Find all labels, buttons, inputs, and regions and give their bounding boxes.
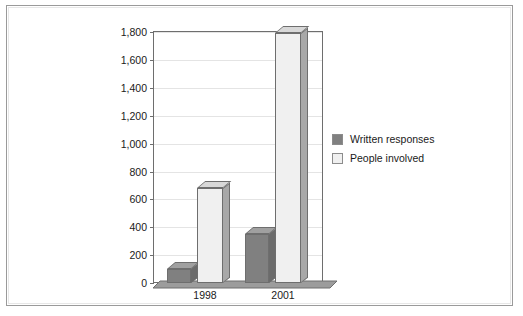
figure-border: 1,800 1,600 1,400 1,200 1,000 800 600 — [6, 5, 513, 306]
page: 1,800 1,600 1,400 1,200 1,000 800 600 — [0, 0, 523, 316]
bar-group-1998 — [167, 31, 239, 283]
legend-swatch-icon — [332, 134, 343, 145]
ytick-label-400: 400 — [129, 222, 147, 233]
bar-front-face — [197, 188, 223, 283]
ytick-label-0: 0 — [141, 278, 147, 289]
xtick-label-1998: 1998 — [193, 290, 216, 301]
legend-label-written-responses: Written responses — [350, 134, 434, 145]
bar-front-face — [167, 269, 191, 283]
legend-label-people-involved: People involved — [350, 153, 424, 164]
ytick-label-1400: 1,400 — [121, 83, 147, 94]
xtick-label-2001: 2001 — [271, 290, 294, 301]
bar-1998-people-involved[interactable] — [197, 188, 223, 283]
bar-2001-people-involved[interactable] — [275, 33, 301, 283]
bar-1998-written-responses[interactable] — [167, 269, 191, 283]
bar-group-2001 — [245, 31, 317, 283]
ytick-label-1800: 1,800 — [121, 27, 147, 38]
bar-side-face — [223, 183, 230, 283]
bar-2001-written-responses[interactable] — [245, 234, 269, 283]
x-axis-labels: 1998 2001 — [153, 290, 331, 308]
ytick-label-1600: 1,600 — [121, 55, 147, 66]
ytick-label-1200: 1,200 — [121, 110, 147, 121]
ytick-label-1000: 1,000 — [121, 138, 147, 149]
legend-swatch-icon — [332, 153, 343, 164]
legend-item-written-responses[interactable]: Written responses — [332, 131, 492, 147]
bar-side-face — [301, 28, 308, 283]
bar-front-face — [245, 234, 269, 283]
ytick-label-600: 600 — [129, 194, 147, 205]
bar-front-face — [275, 33, 301, 283]
chart-legend: Written responses People involved — [332, 131, 492, 169]
bar-chart: 1,800 1,600 1,400 1,200 1,000 800 600 — [7, 6, 514, 307]
ytick-label-800: 800 — [129, 166, 147, 177]
legend-item-people-involved[interactable]: People involved — [332, 150, 492, 166]
ytick-label-200: 200 — [129, 250, 147, 261]
bar-series-layer — [153, 31, 323, 283]
